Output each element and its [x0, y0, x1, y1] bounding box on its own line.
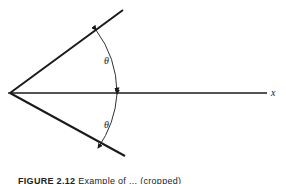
- upper-theta-label: θ: [104, 55, 109, 66]
- x-axis-label: x: [270, 87, 276, 98]
- lower-theta-label: θ: [104, 119, 109, 130]
- figure-number: FIGURE 2.12: [18, 176, 75, 184]
- caption-text: Example of ... (cropped): [78, 176, 181, 184]
- upper-ray: [10, 10, 123, 93]
- angle-diagram: θ θ x: [0, 0, 286, 184]
- figure-caption: FIGURE 2.12 Example of ... (cropped): [18, 176, 181, 184]
